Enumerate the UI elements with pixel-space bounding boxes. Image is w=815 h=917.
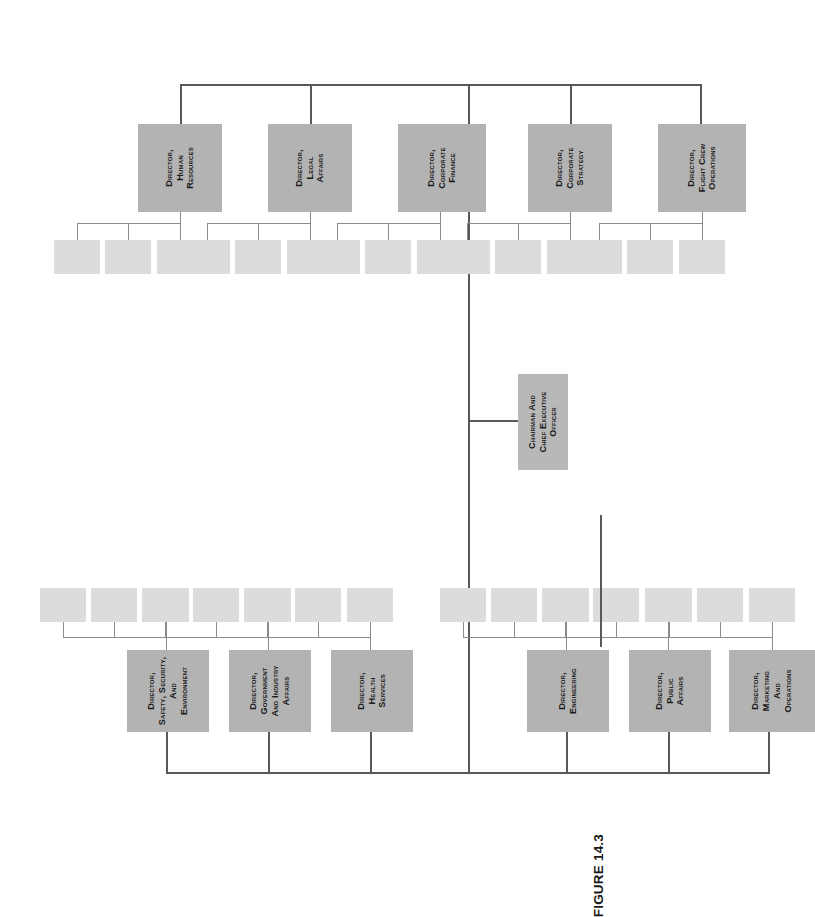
connector-riser-flightcrew-subordinates [599, 223, 703, 224]
connector-riser-marketing-subordinates [669, 637, 773, 638]
connector-stem-health-sub-1 [267, 622, 268, 638]
subordinate-box[interactable] [444, 240, 490, 274]
node-label: Director, Engineering [557, 668, 579, 714]
connector-stem-finance-sub-3 [440, 224, 441, 240]
subordinate-box[interactable] [184, 240, 230, 274]
connector-riser-finance-subordinates [337, 223, 441, 224]
node-label: Director, Public Affairs [654, 672, 687, 709]
subordinate-box[interactable] [576, 240, 622, 274]
connector-stem-legal-affairs [310, 84, 312, 124]
connector-stem-government-sub-1 [165, 622, 166, 638]
subordinate-box[interactable] [91, 588, 137, 622]
node-label: Director, Human Resources [164, 147, 197, 189]
connector-stem-hr-sub-2 [128, 224, 129, 240]
connector-riser-branch-upper [166, 772, 470, 774]
connector-riser-engineering-subordinates [463, 637, 567, 638]
connector-stem-engineering-sub-3 [566, 622, 567, 638]
connector-stem-hr-sub-1 [77, 224, 78, 240]
connector-riser-safety-subordinates [63, 637, 167, 638]
node-director-safety-security-environment[interactable]: Director, Safety, Security, and Environm… [127, 650, 209, 732]
connector-stem-flightcrew-sub-3 [702, 224, 703, 240]
node-director-public-affairs[interactable]: Director, Public Affairs [629, 650, 711, 732]
node-director-corporate-finance[interactable]: Director, Corporate Finance [398, 124, 486, 212]
connector-stem-finance-sub-2 [388, 224, 389, 240]
connector-riser-branch-right [180, 84, 700, 86]
connector-stem-marketing-sub-3 [772, 622, 773, 638]
node-label: Director, Corporate Strategy [554, 147, 587, 189]
connector-root-stem [468, 420, 518, 422]
connector-stem-corporate-strategy [570, 84, 572, 124]
node-label: Director, Safety, Security, and Environm… [146, 657, 189, 725]
connector-bus-health-subordinates [370, 638, 371, 650]
node-label: Director, Legal Affairs [294, 149, 327, 186]
connector-stem-health-services [370, 732, 372, 774]
subordinate-box[interactable] [679, 240, 725, 274]
node-director-government-industry-affairs[interactable]: Director, Government and Industry Affair… [229, 650, 311, 732]
connector-bus-public-affairs-subordinates [668, 638, 669, 650]
subordinate-box[interactable] [627, 240, 673, 274]
connector-riser-legal-subordinates [207, 223, 311, 224]
subordinate-box[interactable] [440, 588, 486, 622]
figure-caption-rule [600, 515, 602, 647]
subordinate-box[interactable] [749, 588, 795, 622]
subordinate-box[interactable] [40, 588, 86, 622]
node-director-human-resources[interactable]: Director, Human Resources [138, 124, 222, 212]
connector-bus-marketing-subordinates [772, 638, 773, 650]
subordinate-box[interactable] [542, 588, 588, 622]
subordinate-box[interactable] [142, 588, 188, 622]
connector-riser-hr-subordinates [77, 223, 181, 224]
connector-stem-public-affairs-sub-2 [616, 622, 617, 638]
subordinate-box[interactable] [347, 588, 393, 622]
connector-bus-government-subordinates [268, 638, 269, 650]
connector-stem-marketing-sub-1 [669, 622, 670, 638]
node-label: Director, Health Services [356, 672, 389, 709]
connector-stem-flightcrew-sub-2 [650, 224, 651, 240]
connector-stem-safety-sub-2 [114, 622, 115, 638]
connector-stem-flight-crew-operations [700, 84, 702, 124]
connector-stem-strategy-sub-1 [467, 224, 468, 240]
connector-stem-hr-sub-3 [180, 224, 181, 240]
node-chairman-and-ceo[interactable]: Chairman and Chief Executive Officer [518, 374, 568, 470]
node-label: Director, Flight Crew Operations [686, 144, 719, 192]
subordinate-box[interactable] [105, 240, 151, 274]
connector-riser-branch-lower [468, 772, 770, 774]
subordinate-box[interactable] [646, 588, 692, 622]
subordinate-box[interactable] [244, 588, 290, 622]
connector-bus-safety-subordinates [166, 638, 167, 650]
subordinate-box[interactable] [193, 588, 239, 622]
figure-caption: FIGURE 14.3 [591, 834, 606, 917]
connector-stem-health-sub-3 [370, 622, 371, 638]
subordinate-box[interactable] [365, 240, 411, 274]
node-director-legal-affairs[interactable]: Director, Legal Affairs [268, 124, 352, 212]
connector-stem-legal-sub-2 [258, 224, 259, 240]
subordinate-box[interactable] [235, 240, 281, 274]
node-director-health-services[interactable]: Director, Health Services [331, 650, 413, 732]
node-label: Director, Corporate Finance [426, 147, 459, 189]
subordinate-box[interactable] [491, 588, 537, 622]
subordinate-box[interactable] [495, 240, 541, 274]
subordinate-box[interactable] [295, 588, 341, 622]
connector-stem-government-sub-3 [268, 622, 269, 638]
connector-stem-public-affairs [668, 732, 670, 774]
connector-stem-engineering [566, 732, 568, 774]
connector-riser-health-subordinates [267, 637, 371, 638]
subordinate-box[interactable] [697, 588, 743, 622]
node-label: Director, Marketing and Operations [750, 669, 793, 712]
node-director-corporate-strategy[interactable]: Director, Corporate Strategy [528, 124, 612, 212]
connector-stem-government-industry [268, 732, 270, 774]
connector-stem-engineering-sub-1 [463, 622, 464, 638]
connector-riser-strategy-subordinates [467, 223, 571, 224]
node-director-engineering[interactable]: Director, Engineering [527, 650, 609, 732]
connector-riser-government-subordinates [165, 637, 269, 638]
connector-stem-strategy-sub-2 [518, 224, 519, 240]
node-director-marketing-and-operations[interactable]: Director, Marketing and Operations [729, 650, 815, 732]
connector-stem-marketing-operations [768, 732, 770, 774]
node-director-flight-crew-operations[interactable]: Director, Flight Crew Operations [658, 124, 746, 212]
connector-stem-flightcrew-sub-1 [599, 224, 600, 240]
subordinate-box[interactable] [314, 240, 360, 274]
subordinate-box[interactable] [54, 240, 100, 274]
connector-stem-government-sub-2 [216, 622, 217, 638]
connector-stem-safety-security [166, 732, 168, 774]
connector-stem-safety-sub-1 [63, 622, 64, 638]
